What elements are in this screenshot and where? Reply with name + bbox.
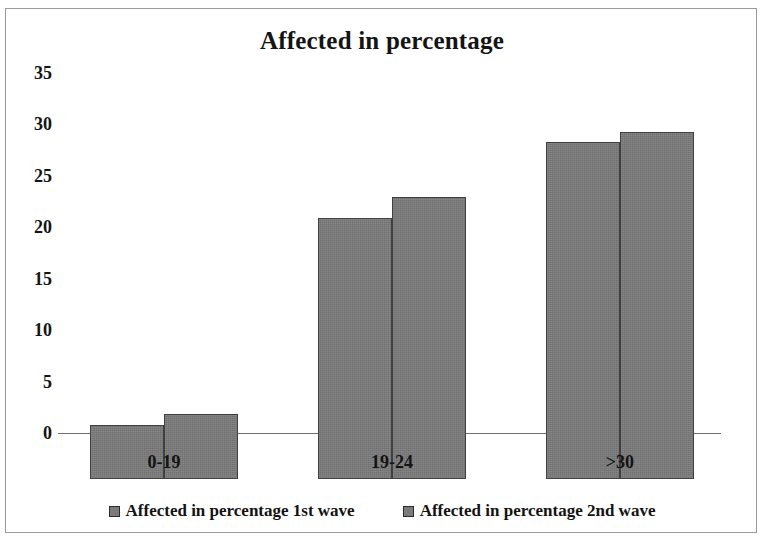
bar-group-gt30 — [546, 99, 694, 479]
bar-series1-gt30[interactable] — [546, 142, 620, 479]
plot-area: 35 30 25 20 15 10 5 0 0-19 19-24 >30 — [6, 9, 758, 479]
bar-series2-gt30[interactable] — [620, 132, 694, 479]
y-tick-label-5: 5 — [6, 373, 52, 391]
x-category-label-0-19: 0-19 — [90, 452, 238, 473]
y-tick-label-15: 15 — [6, 270, 52, 288]
chart-figure-frame: Affected in percentage 35 30 25 20 15 10… — [5, 8, 757, 533]
y-tick-label-10: 10 — [6, 321, 52, 339]
y-tick-label-20: 20 — [6, 218, 52, 236]
y-tick-label-30: 30 — [6, 115, 52, 133]
legend-swatch-icon-series1 — [109, 506, 120, 517]
chart-legend: Affected in percentage 1st wave Affected… — [6, 501, 758, 521]
legend-entry-series2[interactable]: Affected in percentage 2nd wave — [403, 501, 656, 521]
x-category-label-19-24: 19-24 — [318, 452, 466, 473]
y-tick-label-35: 35 — [6, 64, 52, 82]
legend-swatch-icon-series2 — [403, 506, 414, 517]
bar-group-0-19 — [90, 99, 238, 479]
legend-label-series1: Affected in percentage 1st wave — [126, 501, 355, 521]
legend-entry-series1[interactable]: Affected in percentage 1st wave — [109, 501, 355, 521]
bar-group-19-24 — [318, 99, 466, 479]
legend-label-series2: Affected in percentage 2nd wave — [420, 501, 656, 521]
y-tick-label-0: 0 — [6, 424, 52, 442]
y-tick-label-25: 25 — [6, 167, 52, 185]
bar-series1-19-24[interactable] — [318, 218, 392, 479]
bar-series2-19-24[interactable] — [392, 197, 466, 479]
x-category-label-gt30: >30 — [546, 452, 694, 473]
